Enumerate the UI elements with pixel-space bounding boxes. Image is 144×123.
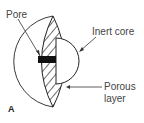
pore-leader-line bbox=[18, 19, 40, 56]
pore-arrowhead-icon bbox=[36, 50, 40, 56]
porous-layer-arrowhead-icon bbox=[66, 85, 70, 89]
pore-channel bbox=[38, 56, 56, 63]
panel-label: A bbox=[8, 104, 15, 114]
particle-diagram: Pore Inert core Porous layer A bbox=[0, 0, 144, 123]
porous-layer-label-line1: Porous bbox=[104, 81, 136, 92]
inert-core-shape bbox=[56, 38, 79, 84]
pore-label: Pore bbox=[6, 9, 28, 20]
inert-core-label: Inert core bbox=[92, 26, 135, 37]
porous-layer-label-line2: layer bbox=[104, 93, 126, 104]
